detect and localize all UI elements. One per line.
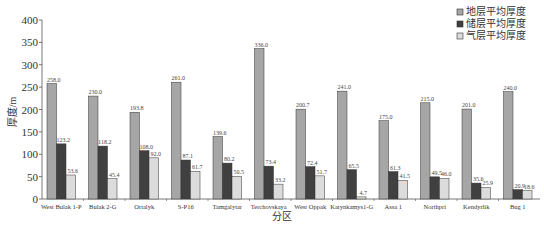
x-axis-title: 分区 <box>272 211 292 222</box>
x-tick-label: Terchovskaya <box>251 203 287 210</box>
bar <box>481 187 491 199</box>
bar <box>398 180 408 199</box>
value-label: 51.7 <box>317 169 328 175</box>
value-label: 118.2 <box>98 139 111 145</box>
value-label: 258.0 <box>47 77 61 83</box>
y-tick-label: 50 <box>27 171 39 183</box>
bar <box>191 171 201 199</box>
x-tick-label: West Bulak 1-P <box>41 203 82 210</box>
bar <box>338 91 348 199</box>
value-label: 65.5 <box>349 163 360 169</box>
bar <box>504 92 514 199</box>
value-label: 46.0 <box>441 171 452 177</box>
value-label: 87.1 <box>183 153 194 159</box>
value-label: 175.0 <box>379 114 393 120</box>
y-tick-label: 0 <box>33 193 39 205</box>
bar <box>149 158 159 199</box>
bar <box>389 172 399 199</box>
value-label: 200.7 <box>296 102 310 108</box>
bar <box>274 184 284 199</box>
x-tick-label: Northpri <box>424 203 447 210</box>
x-tick-label: Katynkamys1-G <box>330 203 373 210</box>
y-tick-label: 200 <box>22 104 39 116</box>
bar <box>523 191 533 199</box>
x-tick-label: Tamgalytar <box>212 203 242 210</box>
x-tick-label: Kendyrlik <box>463 203 490 210</box>
bar <box>421 103 431 199</box>
bar <box>57 144 67 199</box>
x-axis-labels: West Bulak 1-PBulak 2-GOrtalykS-P16Tamga… <box>41 203 526 210</box>
value-label: 80.2 <box>224 156 235 162</box>
value-label: 72.4 <box>307 160 318 166</box>
bar <box>130 112 140 199</box>
bar-chart: 050100150200250300350400 258.0123.253.62… <box>0 0 544 232</box>
legend-swatch <box>457 33 463 39</box>
bar <box>47 84 57 199</box>
legend-swatch <box>457 9 463 15</box>
bar <box>430 177 440 199</box>
bar <box>98 146 108 199</box>
value-label: 139.6 <box>213 130 227 136</box>
bar <box>255 49 265 199</box>
value-label: 201.0 <box>462 102 476 108</box>
value-label: 50.5 <box>234 169 245 175</box>
bar <box>108 179 118 199</box>
value-label: 123.2 <box>57 137 71 143</box>
y-tick-label: 100 <box>22 148 39 160</box>
bar <box>315 176 325 199</box>
x-tick-label: Bug 1 <box>510 203 526 210</box>
bar <box>89 96 99 199</box>
legend-label: 储层平均厚度 <box>466 17 526 29</box>
value-label: 45.4 <box>109 172 120 178</box>
legend-swatch <box>457 21 463 27</box>
value-label: 61.3 <box>390 165 401 171</box>
value-label: 41.5 <box>400 173 411 179</box>
value-label: 4.7 <box>360 190 368 196</box>
value-label: 230.0 <box>89 89 103 95</box>
bar <box>379 121 389 199</box>
bar <box>347 170 357 199</box>
x-tick-label: S-P16 <box>178 203 195 210</box>
y-axis-title: 厚度/m <box>6 97 18 128</box>
value-label: 193.8 <box>130 105 144 111</box>
value-label: 92.0 <box>151 151 162 157</box>
bar <box>223 163 233 199</box>
y-tick-label: 350 <box>22 36 39 48</box>
bar <box>296 109 306 199</box>
value-label: 241.0 <box>338 84 352 90</box>
y-tick-label: 400 <box>22 14 39 26</box>
bar <box>140 151 150 199</box>
bar <box>232 176 242 199</box>
value-label: 33.2 <box>275 177 286 183</box>
value-label: 25.9 <box>483 180 494 186</box>
value-label: 18.6 <box>524 184 535 190</box>
bar <box>357 197 367 199</box>
value-label: 108.0 <box>140 144 154 150</box>
bar <box>513 190 523 199</box>
bar <box>172 82 182 199</box>
value-label: 215.0 <box>421 96 435 102</box>
y-tick-label: 250 <box>22 81 39 93</box>
bar <box>306 167 316 199</box>
bar <box>264 166 274 199</box>
value-label: 336.0 <box>255 42 269 48</box>
value-label: 61.7 <box>192 164 203 170</box>
bar <box>440 178 450 199</box>
legend-label: 气层平均厚度 <box>466 29 526 41</box>
bar <box>66 175 76 199</box>
bar <box>472 183 482 199</box>
y-tick-label: 300 <box>22 59 39 71</box>
x-tick-label: Bulak 2-G <box>89 203 117 210</box>
bar <box>213 137 223 199</box>
x-tick-label: West Oppak <box>294 203 327 210</box>
value-label: 261.0 <box>172 75 186 81</box>
bars: 258.0123.253.6230.0118.245.4193.8108.092… <box>47 42 535 199</box>
value-label: 73.4 <box>266 159 277 165</box>
legend-label: 地层平均厚度 <box>466 5 526 17</box>
y-tick-label: 150 <box>22 126 39 138</box>
x-tick-label: Ortalyk <box>134 203 155 210</box>
value-label: 53.6 <box>68 168 79 174</box>
legend: 地层平均厚度储层平均厚度气层平均厚度 <box>457 5 526 41</box>
x-tick-label: Assa 1 <box>384 203 402 210</box>
value-label: 240.0 <box>504 85 518 91</box>
